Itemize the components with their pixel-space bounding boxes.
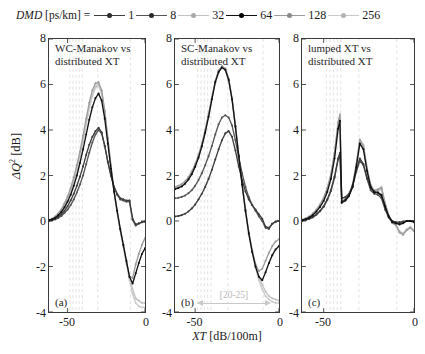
series-marker-64 — [406, 220, 408, 222]
series-marker-128 — [94, 82, 96, 84]
series-marker-1 — [204, 186, 206, 188]
series-marker-64 — [110, 168, 112, 170]
series-marker-8 — [177, 197, 179, 199]
series-marker-1 — [330, 189, 332, 191]
series-marker-64 — [63, 206, 65, 208]
series-marker-64 — [265, 271, 267, 273]
series-marker-128 — [380, 187, 382, 189]
series-marker-1 — [194, 204, 196, 206]
panel-a-plot — [49, 39, 145, 312]
panel-b: SC-Manakov vs distributed XT (b) [20-25] — [174, 38, 280, 313]
legend-title: DMD [ps/km] = — [16, 9, 90, 21]
panel-b-tag: (b) — [181, 296, 194, 308]
series-marker-8 — [70, 204, 72, 206]
series-marker-128 — [132, 277, 134, 279]
legend-entry-128[interactable]: 128 — [274, 8, 326, 23]
series-marker-64 — [177, 187, 179, 189]
legend-entry-32[interactable]: 32 — [178, 8, 224, 23]
y-ticklabel: -4 — [36, 306, 46, 321]
y-ticklabel: 4 — [40, 122, 46, 137]
series-marker-128 — [76, 164, 78, 166]
series-marker-64 — [315, 210, 317, 212]
legend-entry-1[interactable]: 1 — [94, 8, 134, 23]
panel-b-plot — [175, 39, 279, 312]
series-marker-64 — [91, 106, 93, 108]
series-marker-128 — [67, 195, 69, 197]
series-line-128 — [175, 66, 279, 271]
series-marker-8 — [228, 116, 230, 118]
panel-b-range-annotation: [20-25] — [197, 292, 271, 307]
series-marker-8 — [224, 114, 226, 116]
panel-b-range-text: [20-25] — [197, 290, 271, 300]
series-marker-8 — [82, 174, 84, 176]
legend-label: 64 — [260, 8, 272, 23]
series-marker-128 — [359, 139, 361, 141]
series-marker-64 — [73, 185, 75, 187]
series-marker-1 — [107, 161, 109, 163]
series-marker-64 — [231, 98, 233, 100]
legend-marker-icon — [239, 13, 244, 18]
legend-marker-icon — [107, 13, 112, 18]
series-marker-1 — [184, 213, 186, 215]
series-marker-64 — [399, 223, 401, 225]
series-marker-8 — [91, 141, 93, 143]
y-ticklabel: 0 — [166, 214, 172, 229]
series-marker-1 — [234, 149, 236, 151]
series-marker-64 — [330, 178, 332, 180]
legend-title-units: [ps/km] = — [42, 9, 90, 21]
x-ticklabel: -50 — [59, 315, 75, 330]
series-marker-1 — [177, 215, 179, 217]
y-ticklabel: -4 — [289, 306, 299, 321]
y-ticklabel: 4 — [166, 122, 172, 137]
series-marker-64 — [218, 71, 220, 73]
series-marker-1 — [181, 214, 183, 216]
legend-label: 32 — [212, 8, 224, 23]
series-marker-64 — [228, 79, 230, 81]
series-marker-64 — [197, 157, 199, 159]
series-marker-64 — [57, 214, 59, 216]
series-marker-64 — [348, 195, 350, 197]
series-marker-8 — [181, 196, 183, 198]
series-marker-64 — [339, 120, 341, 122]
series-marker-64 — [241, 184, 243, 186]
series-line-32 — [302, 114, 414, 233]
y-ticklabel: 8 — [166, 31, 172, 46]
series-marker-64 — [402, 222, 404, 224]
series-marker-128 — [138, 253, 140, 255]
series-marker-64 — [194, 166, 196, 168]
x-ticklabel: 0 — [412, 315, 418, 330]
series-marker-1 — [399, 221, 401, 223]
series-marker-64 — [248, 232, 250, 234]
series-marker-1 — [323, 205, 325, 207]
legend-line-swatch — [178, 10, 209, 21]
series-marker-64 — [261, 279, 263, 281]
panel-c-plot — [302, 39, 414, 312]
x-ticklabel: 0 — [143, 315, 149, 330]
legend-entry-64[interactable]: 64 — [226, 8, 272, 23]
series-marker-1 — [258, 213, 260, 215]
y-ticklabel: 2 — [293, 168, 299, 183]
series-marker-1 — [101, 131, 103, 133]
legend-marker-icon — [287, 13, 292, 18]
series-marker-64 — [380, 194, 382, 196]
series-marker-8 — [208, 155, 210, 157]
series-marker-1 — [79, 176, 81, 178]
x-axis-symbol: XT — [192, 329, 206, 343]
series-marker-1 — [82, 165, 84, 167]
legend-entry-256[interactable]: 256 — [328, 8, 380, 23]
series-marker-128 — [362, 145, 364, 147]
series-marker-1 — [315, 213, 317, 215]
series-marker-1 — [63, 210, 65, 212]
legend-label: 128 — [308, 8, 326, 23]
series-marker-64 — [82, 148, 84, 150]
panel-a-tag: (a) — [55, 296, 67, 308]
series-marker-1 — [128, 199, 130, 201]
legend-entry-8[interactable]: 8 — [136, 8, 176, 23]
series-marker-128 — [135, 263, 137, 265]
series-marker-64 — [98, 93, 100, 95]
series-marker-1 — [208, 178, 210, 180]
series-marker-8 — [234, 139, 236, 141]
series-marker-128 — [402, 234, 404, 236]
series-line-128 — [302, 115, 414, 234]
series-marker-1 — [98, 127, 100, 129]
